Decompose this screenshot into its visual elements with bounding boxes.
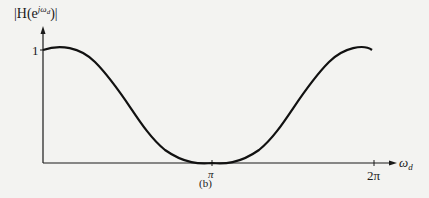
y-tick-label-1: 1 <box>32 43 39 58</box>
x-axis-label: ωd <box>399 155 413 172</box>
x-tick-label-2pi: 2π <box>367 168 381 183</box>
y-axis-arrow-icon <box>41 26 46 34</box>
figure-caption: (b) <box>199 177 212 190</box>
y-axis-label: |H(ejωd)| <box>14 4 58 22</box>
magnitude-curve <box>43 47 372 163</box>
x-axis-arrow-icon <box>389 161 397 166</box>
magnitude-response-chart: |H(ejωd)| 1 π 2π ωd (b) <box>0 0 429 198</box>
